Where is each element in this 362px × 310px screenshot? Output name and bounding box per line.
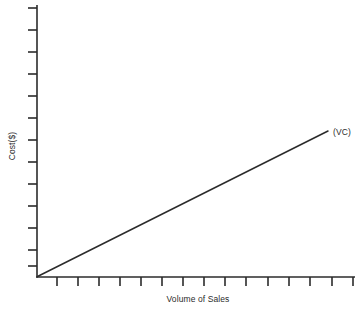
chart-background xyxy=(0,0,362,310)
chart-canvas: Cost($) Volume of Sale xyxy=(0,0,362,310)
x-axis-title: Volume of Sales xyxy=(167,294,230,304)
y-axis-title: Cost($) xyxy=(7,132,17,161)
variable-cost-series-label: (VC) xyxy=(333,127,351,137)
variable-cost-line-chart: Cost($) Volume of Sale xyxy=(0,0,362,310)
